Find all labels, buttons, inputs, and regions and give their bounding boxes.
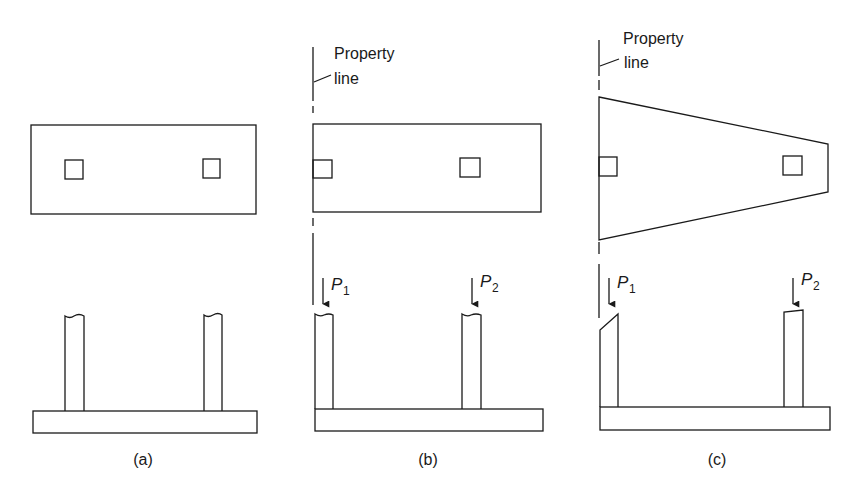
load-label-p1: P (331, 275, 343, 294)
property-line-label-c2: line (624, 54, 649, 71)
combined-footing-diagram: (a) Property line P 1 P 2 (0, 0, 858, 493)
property-line-leader (314, 75, 331, 82)
property-line-label-b2: line (334, 70, 359, 87)
footing-plan-outline (313, 124, 541, 212)
column-elevation-left-sloped (600, 314, 618, 407)
footing-elevation (600, 407, 830, 430)
loads-c: P 1 P 2 (609, 270, 820, 304)
load-label-p1: P (617, 273, 629, 292)
column-plan-left (65, 160, 83, 179)
elevation-view-a (33, 314, 257, 434)
footing-elevation (315, 409, 543, 431)
load-label-p1-sub: 1 (343, 284, 350, 298)
footing-elevation (33, 411, 257, 433)
column-plan-right (460, 158, 480, 177)
elevation-view-b (315, 314, 543, 431)
load-label-p1-sub: 1 (629, 282, 636, 296)
column-elevation-right (784, 310, 803, 407)
column-plan-left (313, 160, 332, 178)
caption-c: (c) (708, 451, 727, 468)
load-label-p2-sub: 2 (492, 281, 499, 295)
loads-b: P 1 P 2 (323, 272, 499, 304)
plan-view-b (313, 124, 541, 212)
panel-a: (a) (31, 125, 257, 468)
caption-a: (a) (133, 451, 153, 468)
panel-b: Property line P 1 P 2 (b) (313, 45, 543, 468)
load-label-p2: P (480, 272, 492, 291)
elevation-view-c (600, 310, 830, 430)
property-line-label-b1: Property (334, 45, 394, 62)
column-elevation-right (204, 314, 222, 412)
plan-view-a (31, 125, 256, 214)
panel-c: Property line P 1 P 2 (c) (599, 30, 830, 468)
property-line-b: Property line (313, 45, 394, 305)
column-plan-right (203, 159, 220, 178)
column-plan-left (599, 157, 617, 176)
caption-b: (b) (418, 451, 438, 468)
load-label-p2: P (801, 270, 813, 289)
trapezoidal-footing-plan-outline (599, 97, 828, 240)
property-line-label-c1: Property (623, 30, 683, 47)
property-line-c: Property line (599, 30, 683, 318)
column-elevation-left (65, 315, 84, 412)
column-elevation-left (315, 314, 333, 409)
load-label-p2-sub: 2 (813, 279, 820, 293)
plan-view-c (599, 97, 828, 240)
property-line-leader (600, 59, 619, 66)
column-plan-right (783, 156, 802, 175)
column-elevation-right (462, 314, 481, 409)
